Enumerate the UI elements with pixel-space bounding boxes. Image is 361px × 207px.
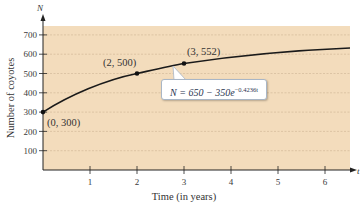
x-tick-label: 6 [323,177,328,187]
y-tick-label: 200 [24,127,38,137]
equation-callout: N = 650 − 350e−0.4236t [161,79,267,100]
coyote-population-chart: 100 200 300 400 500 600 700 1 2 3 4 5 6 … [0,0,361,207]
y-axis-letter: N [36,3,44,13]
point-0-300 [41,110,46,115]
x-tick-label: 4 [229,177,234,187]
equation-text: N = 650 − 350e [170,87,235,98]
x-tick-label: 1 [88,177,93,187]
y-tick-label: 600 [24,49,38,59]
annotation-3-552: (3, 552) [187,46,221,58]
y-tick-label: 500 [24,69,38,79]
x-axis-arrow-icon [350,168,357,173]
y-tick-label: 700 [24,30,38,40]
y-axis-title: Number of coyotes [5,58,16,138]
y-tick-label: 100 [24,146,38,156]
annotation-2-500: (2, 500) [103,57,137,69]
x-tick-label: 5 [276,177,281,187]
annotation-0-300: (0, 300) [47,117,81,129]
y-tick-label: 400 [24,88,38,98]
equation-exponent: −0.4236t [235,86,258,93]
y-tick-label: 300 [24,107,38,117]
x-axis-title: Time (in years) [152,191,217,203]
point-2-500 [135,71,140,76]
x-tick-label: 3 [182,177,187,187]
point-3-552 [182,61,187,66]
x-axis-letter: t [357,166,360,176]
x-tick-label: 2 [135,177,140,187]
y-axis-arrow-icon [41,14,46,21]
